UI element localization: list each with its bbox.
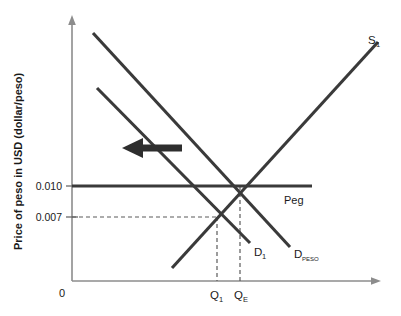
x-tick-label-q1-base: Q [210, 289, 219, 301]
x-tick-label-qe-base: Q [234, 289, 243, 301]
origin-label: 0 [59, 287, 65, 299]
y-axis-arrowhead [68, 15, 76, 25]
supply-curve-label-sub: 1 [376, 40, 380, 49]
x-tick-label-q1: Q 1 [210, 289, 223, 304]
y-tick-label-low: 0.007 [36, 211, 62, 223]
y-tick-label-high: 0.010 [36, 180, 62, 192]
demand-peso-label: D PESO [294, 248, 319, 262]
demand-curve-shifted [97, 88, 250, 243]
peg-label: Peg [284, 194, 304, 206]
supply-curve [172, 42, 378, 268]
supply-curve-label-base: S [368, 34, 376, 46]
x-tick-label-qe: Q E [234, 289, 248, 304]
x-tick-label-q1-sub: 1 [219, 295, 223, 304]
demand-shifted-label-sub: 1 [262, 252, 266, 261]
demand-peso-label-sub: PESO [302, 256, 319, 262]
demand-curve-peso [93, 33, 290, 247]
demand-shift-arrow-icon [122, 138, 182, 158]
chart-canvas: Price of peso in USD (dollar/peso) 0.010… [0, 0, 401, 316]
demand-shifted-label: D 1 [254, 246, 266, 261]
x-tick-label-qe-sub: E [243, 295, 248, 304]
y-axis-title: Price of peso in USD (dollar/peso) [12, 72, 24, 250]
currency-peg-chart: Price of peso in USD (dollar/peso) 0.010… [0, 0, 401, 316]
x-axis-arrowhead [371, 277, 381, 285]
